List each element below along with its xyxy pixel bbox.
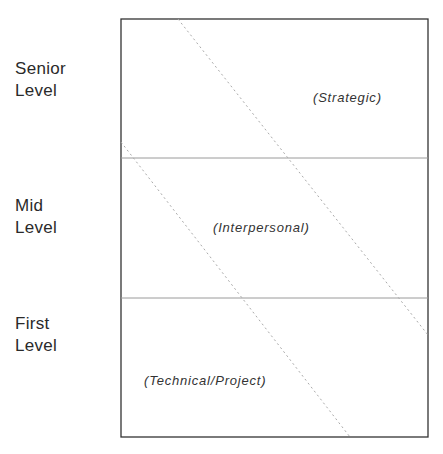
interpersonal-label: (Interpersonal) bbox=[213, 220, 310, 235]
technical-label: (Technical/Project) bbox=[144, 373, 266, 388]
dotted-boundary-lower bbox=[121, 142, 350, 437]
dotted-boundary-upper bbox=[178, 19, 428, 335]
strategic-label: (Strategic) bbox=[313, 90, 382, 105]
